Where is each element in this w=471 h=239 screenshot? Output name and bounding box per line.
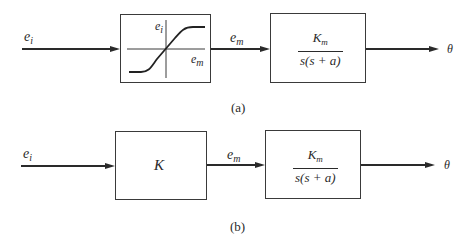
saturation-curve-icon <box>121 15 210 82</box>
transfer-function-a: Km s(s + a) <box>298 30 343 68</box>
denominator: s(s + a) <box>298 54 343 68</box>
motor-transfer-block-a: Km s(s + a) <box>270 13 366 83</box>
transfer-function-b: Km s(s + a) <box>293 147 338 185</box>
fraction-bar <box>293 168 338 169</box>
y-axis-label: ei <box>155 19 163 37</box>
intermediate-arrow-line-b <box>207 164 257 166</box>
intermediate-arrow-line-a <box>211 48 262 50</box>
output-signal-label-b: θ <box>444 158 450 172</box>
input-signal-label-b: ei <box>23 147 32 165</box>
arrowhead-icon <box>105 163 115 169</box>
gain-label: K <box>154 157 164 174</box>
numerator: Km <box>308 147 323 167</box>
caption-a: (a) <box>231 100 245 116</box>
arrowhead-icon <box>255 162 265 168</box>
fraction-bar <box>298 51 343 52</box>
numerator: Km <box>313 30 328 50</box>
arrowhead-icon <box>260 46 270 52</box>
output-signal-label-a: θ <box>447 42 453 56</box>
gain-block: K <box>115 131 207 200</box>
motor-transfer-block-b: Km s(s + a) <box>265 130 361 199</box>
input-arrow-line-a <box>22 48 112 50</box>
output-arrow-line-b <box>361 164 427 166</box>
output-arrow-line-a <box>366 48 431 50</box>
arrowhead-icon <box>425 162 435 168</box>
arrowhead-icon <box>110 46 120 52</box>
input-arrow-line-b <box>21 165 107 167</box>
saturation-block: ei em <box>120 14 211 83</box>
denominator: s(s + a) <box>293 171 338 185</box>
input-signal-label-a: ei <box>24 30 33 48</box>
caption-b: (b) <box>230 219 245 235</box>
intermediate-signal-label-a: em <box>230 31 243 49</box>
arrowhead-icon <box>429 46 439 52</box>
x-axis-label: em <box>191 52 204 70</box>
